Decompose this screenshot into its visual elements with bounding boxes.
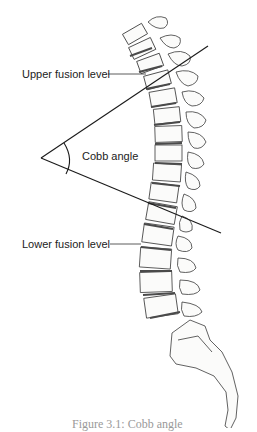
lower-fusion-level-label: Lower fusion level <box>22 239 110 250</box>
spine-illustration <box>122 17 238 428</box>
upper-endplate-line <box>41 46 208 158</box>
upper-fusion-level-label: Upper fusion level <box>22 69 110 80</box>
figure-caption: Figure 3.1: Cobb angle <box>72 417 183 432</box>
cobb-angle-label: Cobb angle <box>82 151 138 162</box>
sacrum <box>170 320 238 428</box>
